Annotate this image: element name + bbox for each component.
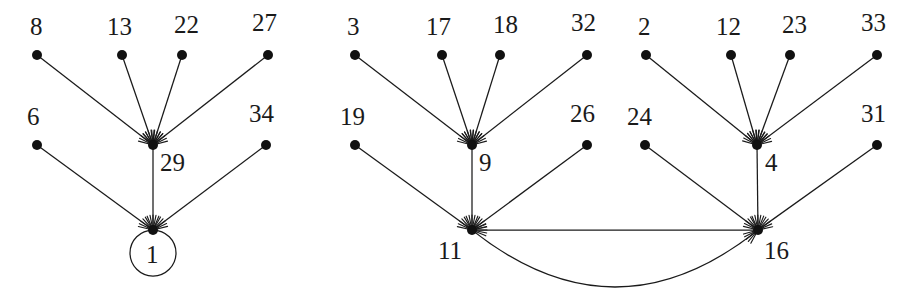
graph-node[interactable] xyxy=(263,50,273,60)
graph-node[interactable] xyxy=(495,50,505,60)
node-label: 11 xyxy=(438,238,462,263)
graph-node[interactable] xyxy=(640,140,650,150)
graph-node[interactable] xyxy=(753,225,763,235)
node-label: 22 xyxy=(174,12,199,37)
node-label: 18 xyxy=(493,12,518,37)
graph-node[interactable] xyxy=(467,225,477,235)
graph-edge xyxy=(355,145,472,230)
node-label: 32 xyxy=(571,10,596,35)
graph-node[interactable] xyxy=(148,140,158,150)
graph-node[interactable] xyxy=(350,50,360,60)
node-label: 31 xyxy=(861,101,886,126)
node-label: 9 xyxy=(479,150,492,175)
graph-edge-curved xyxy=(472,230,758,287)
node-label: 29 xyxy=(160,150,185,175)
node-label: 16 xyxy=(764,238,789,263)
node-label: 4 xyxy=(765,150,778,175)
node-label: 8 xyxy=(30,14,43,39)
node-label: 23 xyxy=(782,12,807,37)
node-label: 26 xyxy=(570,101,595,126)
graph-edge xyxy=(37,145,153,230)
graph-node[interactable] xyxy=(261,140,271,150)
graph-node[interactable] xyxy=(177,50,187,60)
graph-node[interactable] xyxy=(467,140,477,150)
graph-node[interactable] xyxy=(117,50,127,60)
node-label: 27 xyxy=(252,10,277,35)
graph-node[interactable] xyxy=(752,140,762,150)
node-label: 3 xyxy=(347,14,360,39)
node-label: 34 xyxy=(249,101,274,126)
graph-node[interactable] xyxy=(437,50,447,60)
graph-edge xyxy=(355,55,472,145)
node-label: 19 xyxy=(340,104,365,129)
node-label: 2 xyxy=(638,14,651,39)
graph-edge xyxy=(646,55,757,145)
node-label: 33 xyxy=(861,10,886,35)
graph-node[interactable] xyxy=(582,50,592,60)
graph-node[interactable] xyxy=(148,225,158,235)
node-label: 12 xyxy=(716,14,741,39)
graph-edge xyxy=(645,145,758,230)
graph-node[interactable] xyxy=(32,140,42,150)
node-label: 17 xyxy=(426,14,451,39)
graph-node[interactable] xyxy=(582,140,592,150)
node-label: 13 xyxy=(107,14,132,39)
node-label: 1 xyxy=(146,242,159,267)
graph-node[interactable] xyxy=(641,50,651,60)
node-label: 24 xyxy=(627,104,652,129)
directed-graph-figure: 8132227634291317183219269112122333243141… xyxy=(0,0,916,304)
graph-node[interactable] xyxy=(872,140,882,150)
graph-node[interactable] xyxy=(32,50,42,60)
graph-edge xyxy=(37,55,153,145)
graph-node[interactable] xyxy=(726,50,736,60)
graph-edge xyxy=(757,55,877,145)
graph-node[interactable] xyxy=(872,50,882,60)
graph-node[interactable] xyxy=(785,50,795,60)
graph-node[interactable] xyxy=(350,140,360,150)
node-label: 6 xyxy=(27,104,40,129)
node-layer xyxy=(32,50,882,235)
